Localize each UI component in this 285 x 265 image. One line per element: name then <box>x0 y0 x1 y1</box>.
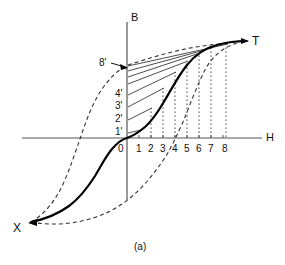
x-axis-label: H <box>266 131 274 143</box>
x-tick-label-3: 3 <box>160 143 166 154</box>
dotted-guide-lines <box>151 44 226 137</box>
reversal-label-4prime: 4' <box>115 88 123 99</box>
y-axis-label: B <box>131 11 138 23</box>
x-tick-label-2: 2 <box>148 143 154 154</box>
x-tick-label-6: 6 <box>196 143 202 154</box>
arrowhead-T <box>241 38 249 44</box>
upper-dashed-return-branch <box>31 65 128 222</box>
reversal-label-8prime: 8' <box>99 57 107 68</box>
figure-container: B H T X 0 1 2 3 4 5 6 7 8 1' 2' 3' 4' 8'… <box>0 0 285 265</box>
x-tick-label-1: 1 <box>136 143 142 154</box>
x-tick-label-8: 8 <box>222 143 228 154</box>
figure-caption: (a) <box>134 241 146 252</box>
reversal-label-3prime: 3' <box>115 100 123 111</box>
origin-label: 0 <box>118 143 124 154</box>
reversal-label-1prime: 1' <box>115 126 123 137</box>
bh-curve-plot: B H T X 0 1 2 3 4 5 6 7 8 1' 2' 3' 4' 8'… <box>0 0 285 265</box>
x-tick-label-5: 5 <box>184 143 190 154</box>
reversal-fan-lines <box>128 44 228 133</box>
endpoint-label-X: X <box>13 221 21 235</box>
endpoint-label-T: T <box>252 34 260 48</box>
reversal-label-2prime: 2' <box>115 113 123 124</box>
reversal-line-6prime <box>128 53 200 77</box>
reversal-line-3prime <box>128 88 164 107</box>
reversal-line-2prime <box>128 108 152 120</box>
arrowhead-X <box>28 219 37 226</box>
x-tick-label-7: 7 <box>208 143 214 154</box>
x-tick-label-4: 4 <box>172 143 178 154</box>
